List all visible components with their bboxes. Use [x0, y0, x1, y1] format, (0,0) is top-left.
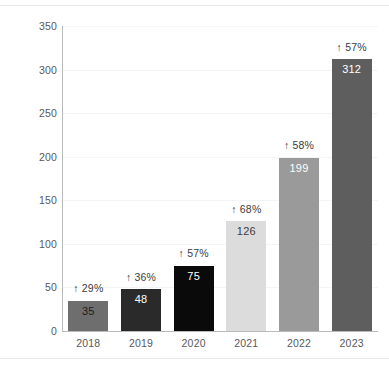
bar-value-label: 199	[279, 163, 319, 174]
x-axis-tick-label: 2020	[167, 338, 220, 349]
bar-growth-annotation: ↑ 57%	[166, 248, 222, 259]
bar-value-label: 126	[226, 226, 266, 237]
bars-layer: 35↑ 29%48↑ 36%75↑ 57%126↑ 68%199↑ 58%312…	[62, 26, 378, 331]
x-axis-tick-label: 2022	[273, 338, 326, 349]
bar[interactable]: 35	[68, 301, 108, 332]
bar[interactable]: 312	[332, 59, 372, 331]
bar[interactable]: 48	[121, 289, 161, 331]
y-axis-tick-label: 150	[9, 195, 57, 206]
bar-group[interactable]: 126↑ 68%	[226, 26, 266, 331]
bar-group[interactable]: 199↑ 58%	[279, 26, 319, 331]
y-axis-tick-label: 200	[9, 152, 57, 163]
x-axis-tick-label: 2021	[220, 338, 273, 349]
y-axis-tick-label: 300	[9, 65, 57, 76]
bar-value-label: 75	[174, 271, 214, 282]
bar[interactable]: 199	[279, 158, 319, 331]
bar-group[interactable]: 48↑ 36%	[121, 26, 161, 331]
chart-screenshot: 050100150200250300350 35↑ 29%48↑ 36%75↑ …	[0, 0, 389, 373]
x-axis-tick-label: 2019	[115, 338, 168, 349]
x-axis-line	[62, 331, 378, 332]
bar-value-label: 312	[332, 64, 372, 75]
bar-chart: 050100150200250300350 35↑ 29%48↑ 36%75↑ …	[0, 0, 389, 373]
y-axis-tick-label: 350	[9, 21, 57, 32]
bar[interactable]: 75	[174, 266, 214, 331]
bar-growth-annotation: ↑ 57%	[324, 42, 380, 53]
y-axis-tick-label: 100	[9, 239, 57, 250]
bar-value-label: 48	[121, 294, 161, 305]
bar-growth-annotation: ↑ 29%	[60, 283, 116, 294]
y-axis-tick-label: 50	[9, 282, 57, 293]
bar-growth-annotation: ↑ 68%	[218, 204, 274, 215]
bar-group[interactable]: 312↑ 57%	[332, 26, 372, 331]
bar-value-label: 35	[68, 306, 108, 317]
bar-growth-annotation: ↑ 36%	[113, 272, 169, 283]
bar-group[interactable]: 35↑ 29%	[68, 26, 108, 331]
x-axis-tick-label: 2018	[62, 338, 115, 349]
bar-growth-annotation: ↑ 58%	[271, 140, 327, 151]
x-axis-tick-label: 2023	[325, 338, 378, 349]
bar-group[interactable]: 75↑ 57%	[174, 26, 214, 331]
y-axis-tick-label: 250	[9, 108, 57, 119]
y-axis-tick-label: 0	[9, 326, 57, 337]
bar[interactable]: 126	[226, 221, 266, 331]
